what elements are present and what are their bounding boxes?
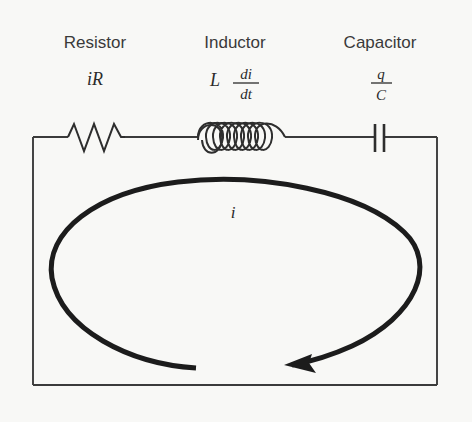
inductor-label: Inductor (204, 33, 266, 52)
inductor-formula-prefix: L (209, 70, 220, 90)
resistor-label: Resistor (64, 33, 127, 52)
inductor-formula-denominator: dt (240, 86, 253, 102)
resistor-formula: iR (87, 69, 103, 89)
diagram-background (0, 0, 472, 422)
capacitor-formula-numerator: q (377, 66, 385, 82)
current-label: i (231, 203, 236, 222)
inductor-formula-numerator: di (240, 66, 252, 82)
circuit-diagram: Resistor Inductor Capacitor iR L di dt q… (0, 0, 472, 422)
capacitor-label: Capacitor (344, 33, 417, 52)
capacitor-formula-denominator: C (376, 87, 387, 103)
